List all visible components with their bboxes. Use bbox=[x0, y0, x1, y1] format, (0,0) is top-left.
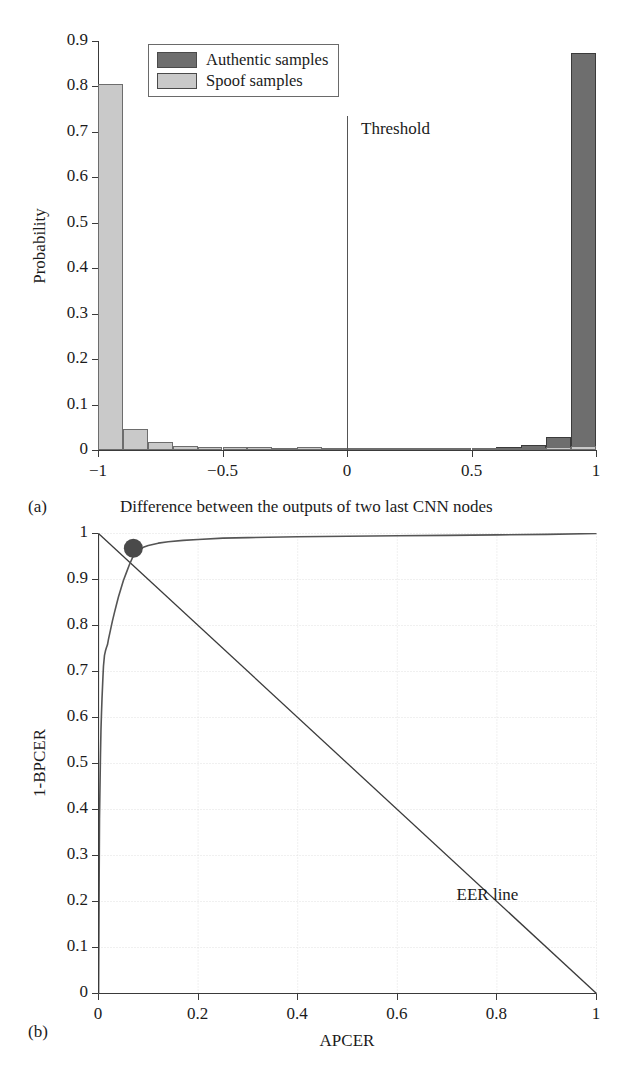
bar-spoof bbox=[223, 447, 248, 450]
panel-b-x-tick bbox=[198, 994, 199, 1000]
bar-spoof bbox=[148, 442, 173, 450]
panel-a-y-tick-label: 0.4 bbox=[46, 257, 88, 277]
panel-b-x-tick bbox=[297, 994, 298, 1000]
panel-b-y-tick bbox=[92, 717, 98, 718]
panel-a-x-tick bbox=[347, 451, 348, 457]
panel-a-x-tick-label: 0.5 bbox=[442, 461, 502, 481]
panel-b-y-tick-label: 0.5 bbox=[44, 752, 88, 772]
panel-a-x-tick bbox=[98, 451, 99, 457]
panel-a-x-tick-label: 1 bbox=[566, 461, 626, 481]
bar-authentic bbox=[571, 53, 596, 450]
panel-b-y-tick-label: 0.2 bbox=[44, 890, 88, 910]
legend-label-authentic: Authentic samples bbox=[206, 50, 328, 70]
panel-b-x-tick-label: 0.2 bbox=[168, 1004, 228, 1024]
bar-spoof bbox=[521, 448, 546, 450]
bar-spoof bbox=[272, 448, 297, 450]
panel-a-y-tick-label: 0.1 bbox=[46, 394, 88, 414]
panel-b-x-tick-label: 0.6 bbox=[367, 1004, 427, 1024]
panel-a-x-tick-label: 0 bbox=[317, 461, 377, 481]
panel-a-y-tick-label: 0.2 bbox=[46, 348, 88, 368]
legend-swatch-authentic bbox=[157, 52, 197, 68]
panel-a-y-tick-label: 0.5 bbox=[46, 212, 88, 232]
panel-b-y-tick bbox=[92, 579, 98, 580]
legend-swatch-spoof bbox=[157, 73, 197, 89]
caption-b-tag: (b) bbox=[28, 1022, 48, 1042]
panel-b-y-tick-label: 0 bbox=[44, 982, 88, 1002]
panel-b-y-tick-label: 0.8 bbox=[44, 614, 88, 634]
panel-a-y-tick-label: 0 bbox=[46, 439, 88, 459]
panel-b-y-tick bbox=[92, 947, 98, 948]
panel-a-x-tick bbox=[472, 451, 473, 457]
panel-b-y-tick-label: 0.9 bbox=[44, 568, 88, 588]
panel-b-y-tick bbox=[92, 763, 98, 764]
bar-spoof bbox=[173, 446, 198, 450]
panel-b-x-tick bbox=[596, 994, 597, 1000]
panel-b-y-tick bbox=[92, 671, 98, 672]
panel-a-legend: Authentic samples Spoof samples bbox=[148, 44, 339, 97]
panel-a-x-tick bbox=[223, 451, 224, 457]
legend-item-spoof: Spoof samples bbox=[157, 70, 328, 91]
bar-spoof bbox=[372, 448, 397, 450]
panel-b-svg bbox=[98, 533, 598, 995]
panel-a-x-tick-label: −0.5 bbox=[193, 461, 253, 481]
panel-b-x-tick-label: 0 bbox=[68, 1004, 128, 1024]
panel-a-y-tick-label: 0.8 bbox=[46, 75, 88, 95]
bar-spoof bbox=[322, 448, 347, 450]
bar-spoof bbox=[546, 447, 571, 450]
panel-b-y-tick-label: 0.1 bbox=[44, 936, 88, 956]
panel-b-y-tick-label: 0.4 bbox=[44, 798, 88, 818]
panel-b-roc: 1-BPCER 00.10.20.30.40.50.60.70.80.9100.… bbox=[0, 500, 642, 1076]
bar-spoof bbox=[472, 448, 497, 450]
panel-b-y-tick bbox=[92, 533, 98, 534]
panel-a-y-axis-title: Probability bbox=[30, 186, 50, 306]
panel-a-y-tick bbox=[92, 41, 98, 42]
bar-spoof bbox=[397, 448, 422, 450]
bar-spoof bbox=[198, 447, 223, 450]
bar-spoof bbox=[496, 448, 521, 450]
bar-spoof bbox=[98, 84, 123, 450]
panel-a-plot-area: 00.10.20.30.40.50.60.70.80.9−1−0.500.51T… bbox=[98, 41, 596, 450]
panel-b-y-tick-label: 0.6 bbox=[44, 706, 88, 726]
panel-a-y-tick-label: 0.3 bbox=[46, 303, 88, 323]
panel-b-y-tick bbox=[92, 809, 98, 810]
panel-b-x-tick-label: 1 bbox=[566, 1004, 626, 1024]
bar-spoof bbox=[247, 447, 272, 450]
legend-label-spoof: Spoof samples bbox=[206, 71, 303, 91]
panel-a-y-tick-label: 0.7 bbox=[46, 121, 88, 141]
threshold-line bbox=[347, 116, 348, 450]
panel-b-y-tick-label: 0.7 bbox=[44, 660, 88, 680]
panel-b-x-tick bbox=[397, 994, 398, 1000]
panel-b-y-tick bbox=[92, 901, 98, 902]
bar-spoof bbox=[123, 429, 148, 450]
panel-b-y-tick bbox=[92, 855, 98, 856]
threshold-label: Threshold bbox=[361, 119, 430, 139]
bar-spoof bbox=[447, 448, 472, 450]
panel-b-x-tick bbox=[98, 994, 99, 1000]
panel-b-plot-area: 00.10.20.30.40.50.60.70.80.9100.20.40.60… bbox=[98, 533, 596, 993]
panel-a-histogram: Probability 00.10.20.30.40.50.60.70.80.9… bbox=[0, 0, 642, 500]
panel-a-x-tick-label: −1 bbox=[68, 461, 128, 481]
legend-item-authentic: Authentic samples bbox=[157, 49, 328, 70]
panel-a-y-tick-label: 0.9 bbox=[46, 30, 88, 50]
panel-b-x-axis-title: APCER bbox=[98, 1031, 596, 1051]
panel-a-x-tick bbox=[596, 451, 597, 457]
panel-b-y-tick bbox=[92, 625, 98, 626]
panel-a-y-tick-label: 0.6 bbox=[46, 166, 88, 186]
panel-b-y-tick-label: 0.3 bbox=[44, 844, 88, 864]
bar-spoof bbox=[347, 448, 372, 450]
eer-line-label: EER line bbox=[457, 885, 519, 905]
panel-b-x-tick-label: 0.4 bbox=[267, 1004, 327, 1024]
panel-b-x-tick bbox=[496, 994, 497, 1000]
panel-b-y-tick-label: 1 bbox=[44, 522, 88, 542]
panel-b-x-tick-label: 0.8 bbox=[466, 1004, 526, 1024]
figure-page: Probability 00.10.20.30.40.50.60.70.80.9… bbox=[0, 0, 642, 1076]
eer-operating-point-marker bbox=[124, 539, 143, 558]
bar-spoof bbox=[571, 446, 596, 450]
bar-spoof bbox=[422, 448, 447, 450]
bar-spoof bbox=[297, 447, 322, 450]
